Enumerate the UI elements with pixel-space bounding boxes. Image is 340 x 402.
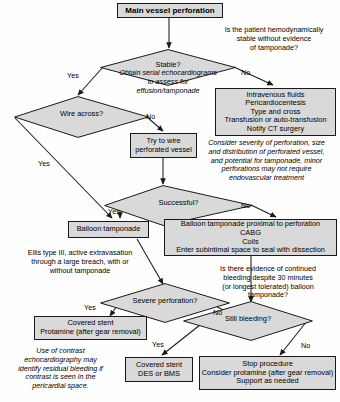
node-stop-procedure[interactable]: Stop procedure Consider protamine (after… [199,356,336,390]
note-continued-bleeding-question: Is there evidence of continued bleeding … [198,265,338,300]
node-covered-stent-protamine[interactable]: Covered stent Protamine (after gear remo… [34,316,147,340]
node-line: perforated vessel [135,146,192,155]
node-line: Support as needed [236,377,298,386]
decision-label: Wire across? [14,109,149,118]
edge-label-still-bleeding-yes: Yes [152,340,164,349]
decision-wire-across[interactable]: Wire across? [14,96,149,138]
node-balloon-tamponade[interactable]: Balloon tamponade [68,221,149,238]
edge-label-wire-across-no: No [146,112,155,121]
note-line: tamponade? [198,291,338,300]
note-serial-echocardiograms: Obtain serial echocardiograms to assess … [103,69,233,95]
edge-label-stable-yes: Yes [67,71,79,80]
node-intravenous-fluids[interactable]: Intravenous fluids Pericardiocentesis Ty… [215,88,336,136]
node-line: Protamine (after gear removal) [40,328,141,337]
node-label: Main vessel perforation [125,6,214,15]
edge-label-successful-yes: Yes [108,207,120,216]
node-try-to-wire-perforated-vessel[interactable]: Try to wire perforated vessel [130,133,197,158]
note-line: without tamponade [2,267,158,276]
edge-label-wire-across-yes: Yes [38,159,50,168]
edge-label-stable-no: No [241,68,250,77]
note-line: pericardial space. [4,382,117,391]
note-hemodynamic-question: Is the patient hemodynamically stable wi… [210,26,338,52]
node-covered-stent-des-bms[interactable]: Covered stent DES or BMS [125,357,193,382]
node-line: Notify CT surgery [247,125,304,134]
edge-label-severe-perforation-yes: Yes [84,303,96,312]
flowchart-canvas: Main vessel perforation Intravenous flui… [0,0,340,402]
node-main-vessel-perforation[interactable]: Main vessel perforation [117,3,223,18]
node-balloon-tamponade-proximal[interactable]: Balloon tamponade proximal to perforatio… [164,219,337,256]
note-ellis-type-iii: Ellis type III, active extravasation thr… [2,249,158,275]
note-contrast-echocardiography: Use of contrast echocardiography may ide… [4,347,117,391]
edge-label-successful-no: No [241,201,250,210]
decision-label: Still bleeding? [183,314,313,323]
node-line: Enter subintimal space to seal with diss… [176,246,325,255]
edge-label-severe-perforation-no: No [213,308,222,317]
node-line: DES or BMS [138,370,180,379]
note-line: effusion/tamponade [103,87,233,96]
decision-label: Successful? [104,198,253,207]
note-line: endovascular treatment [193,174,340,183]
note-line: of tamponade? [210,44,338,53]
node-label: Balloon tamponade [77,225,141,234]
note-consider-severity: Consider severity of perforation, size a… [193,139,340,183]
decision-still-bleeding[interactable]: Still bleeding? [183,301,313,341]
edge-label-still-bleeding-no: No [301,341,310,350]
